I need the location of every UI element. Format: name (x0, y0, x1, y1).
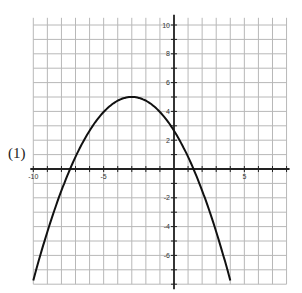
parabola-graph: -10-55108642-2-4-6 (0, 0, 302, 293)
x-tick-label: 5 (242, 173, 246, 180)
y-tick-label: -4 (164, 223, 170, 230)
x-tick-label: -5 (101, 173, 107, 180)
y-tick-label: 10 (162, 22, 170, 29)
y-tick-label: 2 (166, 137, 170, 144)
y-tick-label: 6 (166, 79, 170, 86)
y-tick-label: -6 (164, 252, 170, 259)
y-tick-label: -2 (164, 194, 170, 201)
x-tick-label: -10 (28, 173, 38, 180)
y-tick-label: 4 (166, 108, 170, 115)
y-tick-label: 8 (166, 50, 170, 57)
